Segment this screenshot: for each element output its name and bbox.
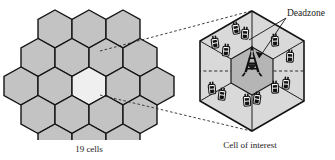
cluster-caption: 19 cells — [75, 144, 103, 154]
cell-of-interest-caption: Cell of interest — [223, 140, 277, 150]
cluster-group: 19 cells — [0, 10, 180, 160]
deadzone-label: Deadzone — [287, 8, 325, 18]
cellular-network-figure: 19 cells — [0, 0, 335, 160]
detail-group: Deadzone Cell of interest — [198, 8, 325, 150]
